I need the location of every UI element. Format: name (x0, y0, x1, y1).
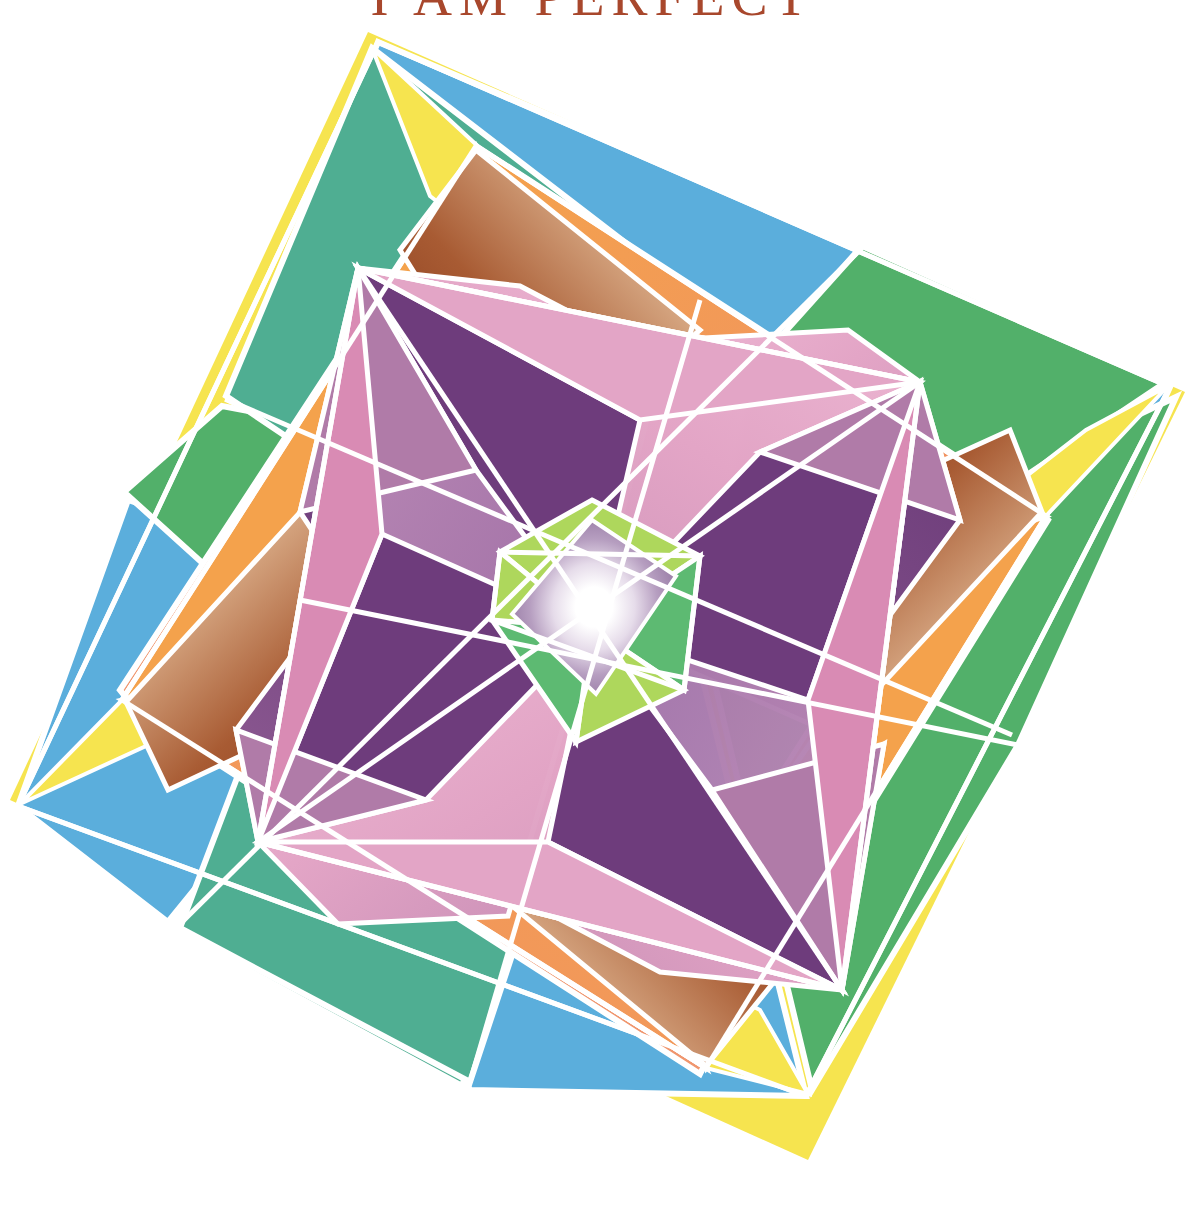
geometric-artwork (0, 0, 1185, 1221)
artwork-container (0, 0, 1185, 1221)
cover-page: I AM PERFECT (0, 0, 1185, 1221)
